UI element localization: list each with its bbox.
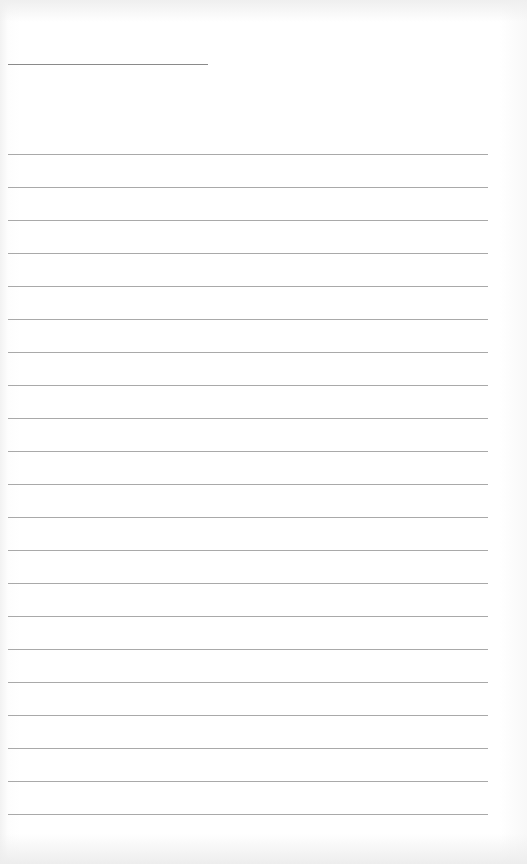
- ruled-line: [8, 352, 488, 353]
- bottom-edge-shadow: [0, 834, 527, 864]
- ruled-line: [8, 649, 488, 650]
- ruled-line: [8, 517, 488, 518]
- ruled-line: [8, 484, 488, 485]
- ruled-line: [8, 781, 488, 782]
- ruled-line: [8, 814, 488, 815]
- ruled-line: [8, 715, 488, 716]
- title-line: [8, 64, 208, 65]
- lined-paper-sheet: [0, 0, 527, 864]
- ruled-line: [8, 154, 488, 155]
- ruled-line: [8, 253, 488, 254]
- top-edge-shadow: [0, 0, 527, 22]
- ruled-line: [8, 682, 488, 683]
- ruled-line: [8, 616, 488, 617]
- ruled-line: [8, 583, 488, 584]
- ruled-line: [8, 418, 488, 419]
- ruled-line: [8, 187, 488, 188]
- ruled-line: [8, 385, 488, 386]
- ruled-line: [8, 220, 488, 221]
- ruled-line: [8, 451, 488, 452]
- ruled-line: [8, 550, 488, 551]
- ruled-line: [8, 319, 488, 320]
- ruled-line: [8, 286, 488, 287]
- ruled-line: [8, 748, 488, 749]
